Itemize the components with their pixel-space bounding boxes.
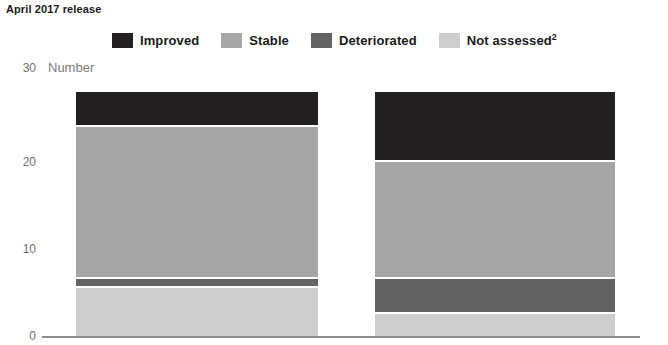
y-tick-0: 0 — [2, 329, 36, 343]
stacked-bar-1[interactable] — [76, 92, 318, 336]
plot-area: Number 0 10 20 30 — [0, 0, 668, 345]
bar-1-segment-deteriorated[interactable] — [76, 279, 318, 288]
bar-2-segment-improved[interactable] — [375, 92, 615, 162]
stacked-bar-2[interactable] — [375, 92, 615, 336]
y-axis-title: Number — [48, 60, 94, 75]
bar-1-segment-stable[interactable] — [76, 127, 318, 279]
bar-2-segment-deteriorated[interactable] — [375, 279, 615, 314]
bar-2-segment-not-assessed[interactable] — [375, 314, 615, 336]
x-axis-line — [42, 336, 640, 338]
y-tick-30: 30 — [2, 61, 36, 75]
y-tick-20: 20 — [2, 155, 36, 169]
y-tick-10: 10 — [2, 242, 36, 256]
bar-2-segment-stable[interactable] — [375, 162, 615, 279]
bar-1-segment-not-assessed[interactable] — [76, 288, 318, 336]
bar-1-segment-improved[interactable] — [76, 92, 318, 127]
